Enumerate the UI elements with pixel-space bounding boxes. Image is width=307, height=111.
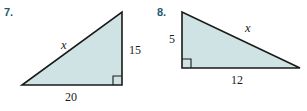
side-label-vertical-leg-7: 15 [129, 44, 141, 56]
problem-8: 8. 5 x 12 [153, 0, 307, 111]
side-label-vertical-leg-8: 5 [169, 33, 175, 45]
problem-7: 7. x 15 20 [0, 0, 153, 111]
triangle-shape-7 [22, 12, 122, 85]
triangle-svg-8 [153, 0, 307, 111]
worksheet-page: 7. x 15 20 8. 5 x 12 [0, 0, 307, 111]
triangle-figure-8 [153, 0, 307, 111]
triangle-shape-8 [182, 12, 300, 68]
side-label-hypotenuse-7: x [61, 39, 67, 52]
side-label-horizontal-leg-7: 20 [65, 91, 77, 103]
side-label-horizontal-leg-8: 12 [231, 74, 243, 86]
side-label-hypotenuse-8: x [245, 22, 251, 35]
